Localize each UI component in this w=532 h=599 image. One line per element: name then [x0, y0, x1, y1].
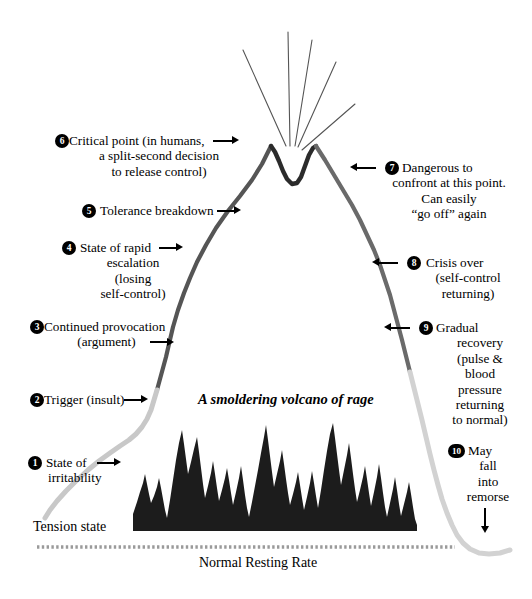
- center-caption: A smoldering volcano of rage: [198, 391, 374, 408]
- stage-6-arrow-icon: [213, 140, 233, 142]
- stage-1-line-2: irritability: [28, 470, 115, 485]
- stage-2-label[interactable]: 2 Trigger (insult): [30, 392, 142, 407]
- stage-6-line-3: to release control): [55, 164, 285, 179]
- stage-8-line-3: returning): [378, 286, 528, 301]
- stage-7-line-2: confront at this point.: [356, 175, 528, 190]
- stage-8-badge: 8: [407, 256, 421, 270]
- stage-2-line-1: Trigger (insult): [44, 392, 124, 407]
- stage-4-label[interactable]: 4 State of rapid escalation (losing self…: [62, 240, 222, 302]
- stage-5-badge: 5: [82, 204, 96, 218]
- stage-9-line-7: to normal): [390, 412, 530, 427]
- stage-1-line-1: State of: [42, 455, 87, 470]
- stage-5-line-1: Tolerance breakdown: [96, 203, 214, 218]
- stage-10-line-3: into: [448, 474, 528, 489]
- stage-9-arrow-icon: [390, 327, 410, 329]
- stage-8-line-1: Crisis over: [421, 255, 484, 270]
- stage-9-line-2: recovery: [390, 335, 530, 350]
- stage-4-arrow-icon: [159, 247, 177, 249]
- stage-9-line-5: pressure: [390, 382, 530, 397]
- stage-9-line-3: (pulse &: [390, 351, 530, 366]
- stage-3-label[interactable]: 3 Continued provocation (argument): [30, 319, 215, 350]
- stage-10-arrow-down-icon: [484, 508, 486, 526]
- stage-6-line-1: Critical point (in humans,: [69, 133, 205, 148]
- stage-7-arrow-icon: [356, 167, 376, 169]
- stage-10-label[interactable]: 10 May fall into remorse: [448, 443, 528, 505]
- stage-2-arrow-icon: [124, 399, 142, 401]
- normal-resting-rate-label: Normal Resting Rate: [199, 555, 317, 571]
- smoldering-lava-silhouette: [133, 423, 417, 531]
- stage-7-line-3: Can easily: [356, 191, 528, 206]
- volcano-anger-diagram: 6 Critical point (in humans, a split-sec…: [0, 0, 532, 599]
- stage-2-badge: 2: [30, 393, 44, 407]
- stage-7-label[interactable]: 7 Dangerous to confront at this point. C…: [356, 160, 528, 222]
- stage-4-line-2: escalation: [62, 255, 222, 270]
- stage-6-badge: 6: [55, 134, 69, 148]
- stage-6-label[interactable]: 6 Critical point (in humans, a split-sec…: [55, 133, 285, 179]
- stage-6-line-2: a split-second decision: [55, 148, 285, 163]
- stage-7-line-1: Dangerous to: [399, 160, 473, 175]
- stage-10-badge: 10: [448, 444, 465, 458]
- stage-10-line-4: remorse: [448, 489, 528, 504]
- stage-10-line-2: fall: [448, 458, 528, 473]
- stage-4-badge: 4: [62, 241, 76, 255]
- stage-7-line-4: “go off” again: [356, 206, 528, 221]
- stage-9-label[interactable]: 9 Gradual recovery (pulse & blood pressu…: [390, 320, 530, 428]
- stage-9-line-6: returning: [390, 397, 530, 412]
- stage-1-arrow-icon: [97, 462, 115, 464]
- stage-9-line-1: Gradual: [433, 320, 478, 335]
- stage-5-label[interactable]: 5 Tolerance breakdown: [82, 203, 235, 218]
- stage-4-line-4: self-control): [62, 286, 222, 301]
- stage-9-badge: 9: [419, 321, 433, 335]
- stage-3-arrow-icon: [150, 341, 168, 343]
- tension-state-label: Tension state: [33, 519, 106, 535]
- stage-3-line-1: Continued provocation: [44, 319, 165, 334]
- stage-9-line-4: blood: [390, 366, 530, 381]
- stage-8-line-2: (self-control: [378, 270, 528, 285]
- stage-8-arrow-icon: [378, 262, 398, 264]
- stage-4-line-1: State of rapid: [76, 240, 151, 255]
- stage-7-badge: 7: [385, 161, 399, 175]
- stage-1-badge: 1: [28, 456, 42, 470]
- stage-3-line-2: (argument): [77, 334, 135, 349]
- stage-8-label[interactable]: 8 Crisis over (self-control returning): [378, 255, 528, 301]
- stage-1-label[interactable]: 1 State of irritability: [28, 455, 115, 486]
- stage-3-badge: 3: [30, 320, 44, 334]
- stage-10-line-1: May: [465, 443, 492, 458]
- stage-4-line-3: (losing: [62, 271, 222, 286]
- stage-5-arrow-icon: [217, 210, 235, 212]
